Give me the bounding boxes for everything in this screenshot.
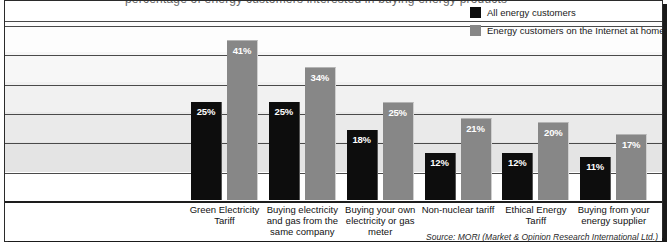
bar-value-label: 12% [425,157,455,168]
bar-value-label: 34% [305,72,335,83]
legend-item: Energy customers on the Internet at home [470,23,650,38]
legend-swatch-grey [470,25,481,36]
category-label: Buying your own electricity or gas meter [338,204,422,238]
bar-all-energy-customers: 11% [580,157,611,200]
plot-area: 25%41%25%34%18%25%12%21%12%20%11%17% [5,21,662,202]
chart-figure: percentage of energy customers intereste… [0,0,667,246]
category-label: Non-nuclear tariff [416,204,500,215]
category-label: Green Electricity Tariff [183,204,267,226]
bar-internet-customers: 21% [461,118,492,200]
bar-value-label: 18% [347,134,377,145]
bar-internet-customers: 34% [305,67,336,200]
bar-internet-customers: 20% [538,122,569,200]
category-label: Buying from your energy supplier [572,204,656,226]
chart-legend: All energy customers Energy customers on… [470,5,650,39]
bar-internet-customers: 41% [227,40,258,200]
bar-internet-customers: 17% [616,134,647,200]
legend-label: Energy customers on the Internet at home [487,25,664,36]
legend-label: All energy customers [487,7,576,18]
bar-value-label: 41% [227,45,257,56]
category-label: Buying electricity and gas from the same… [260,204,344,238]
category-label: Ethical Energy Tariff [494,204,578,226]
bar-all-energy-customers: 12% [425,153,456,200]
bar-value-label: 11% [580,161,610,172]
gridline [5,55,662,56]
bar-value-label: 12% [502,157,532,168]
bar-internet-customers: 25% [383,102,414,200]
bar-value-label: 17% [616,139,646,150]
bar-all-energy-customers: 25% [269,102,300,200]
bar-all-energy-customers: 25% [191,102,222,200]
source-attribution: Source: MORI (Market & Opinion Research … [426,232,658,242]
bar-value-label: 20% [538,127,568,138]
bar-value-label: 25% [383,107,413,118]
bar-all-energy-customers: 12% [502,153,533,200]
bar-all-energy-customers: 18% [347,130,378,200]
bar-value-label: 25% [269,106,299,117]
bar-value-label: 21% [461,123,491,134]
legend-item: All energy customers [470,5,650,20]
cropped-headline-text: percentage of energy customers intereste… [125,1,507,6]
legend-swatch-black [470,7,481,18]
frame-shadow-right [663,4,667,242]
bar-value-label: 25% [191,106,221,117]
